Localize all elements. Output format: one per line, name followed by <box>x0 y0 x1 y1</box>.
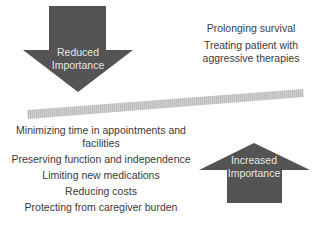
increased-importance-list: Minimizing time in appointments and faci… <box>8 124 194 217</box>
up-arrow-label-line2: Importance <box>224 167 284 180</box>
down-arrow-label-line1: Reduced <box>48 46 108 59</box>
increased-item: Protecting from caregiver burden <box>8 201 194 214</box>
reduced-importance-list: Prolonging survival Treating patient wit… <box>183 22 319 69</box>
down-arrow-label-line2: Importance <box>48 59 108 72</box>
down-arrow-label: Reduced Importance <box>48 46 108 72</box>
reduced-item: Treating patient with aggressive therapi… <box>183 39 319 65</box>
increased-item: Preserving function and independence <box>8 153 194 166</box>
increased-item: Limiting new medications <box>8 169 194 182</box>
up-arrow-label-line1: Increased <box>224 154 284 167</box>
increased-item: Minimizing time in appointments and faci… <box>8 124 194 150</box>
reduced-item: Prolonging survival <box>183 22 319 35</box>
up-arrow-label: Increased Importance <box>224 154 284 180</box>
balance-bar <box>27 89 304 119</box>
increased-item: Reducing costs <box>8 185 194 198</box>
